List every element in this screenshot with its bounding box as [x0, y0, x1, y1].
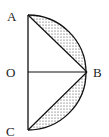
label-a: A — [7, 9, 17, 24]
label-o: O — [6, 65, 15, 80]
geometry-diagram: A O B C — [0, 0, 109, 137]
label-b: B — [93, 65, 102, 80]
label-c: C — [6, 124, 15, 137]
